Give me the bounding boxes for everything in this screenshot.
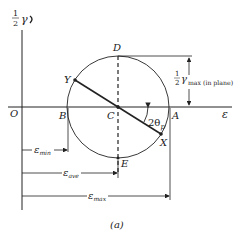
v-axis-rotation-arrow-icon bbox=[30, 16, 32, 23]
label-origin: O bbox=[10, 108, 18, 119]
v-axis-frac-num: 1 bbox=[13, 9, 18, 18]
v-axis-symbol: γ bbox=[21, 13, 28, 26]
mohr-circle-diagram: 1 2 γ O B C A D E Y X ε 2θp 1 2 γ max (i… bbox=[0, 0, 238, 237]
radius-frac-den: 2 bbox=[175, 79, 179, 87]
label-d: D bbox=[112, 42, 121, 53]
label-epsilon-axis: ε bbox=[222, 108, 228, 121]
angle-label: 2θp bbox=[148, 117, 165, 131]
radius-symbol: γ bbox=[181, 73, 187, 84]
v-axis-frac-den: 2 bbox=[13, 19, 18, 28]
point-x-dot bbox=[159, 132, 163, 136]
eps-max-label: εmax bbox=[88, 190, 107, 202]
label-a: A bbox=[171, 110, 179, 121]
label-c: C bbox=[107, 110, 115, 121]
label-y: Y bbox=[64, 74, 72, 85]
label-e: E bbox=[120, 158, 129, 169]
eps-min-label: εmin bbox=[34, 144, 51, 156]
radius-subscript: max (in plane) bbox=[188, 79, 233, 87]
point-y-dot bbox=[73, 78, 77, 82]
radius-frac-num: 1 bbox=[175, 70, 179, 78]
label-b: B bbox=[58, 110, 66, 121]
point-e-dot bbox=[117, 157, 120, 160]
label-x: X bbox=[159, 137, 168, 148]
figure-caption: (a) bbox=[110, 219, 124, 230]
eps-ave-label: εave bbox=[63, 167, 79, 179]
point-c-dot bbox=[116, 105, 120, 109]
